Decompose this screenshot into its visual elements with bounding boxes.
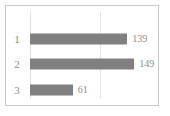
category-label: 3 (8, 85, 26, 96)
bar-value-label: 61 (78, 85, 88, 95)
bar-series-0-item-1[interactable] (30, 59, 134, 70)
category-label: 1 (8, 34, 26, 45)
chart-frame: 1 139 2 149 3 61 (5, 5, 159, 106)
category-label: 2 (8, 59, 26, 70)
bar-row: 3 61 (6, 77, 158, 103)
bar-row: 2 149 (6, 51, 158, 77)
bar-value-label: 149 (139, 59, 154, 69)
bar-series-0-item-0[interactable] (30, 34, 127, 45)
plot-area: 1 139 2 149 3 61 (6, 6, 158, 105)
bar-row: 1 139 (6, 26, 158, 52)
bar-series-0-item-2[interactable] (30, 85, 73, 96)
bar-value-label: 139 (132, 34, 147, 44)
